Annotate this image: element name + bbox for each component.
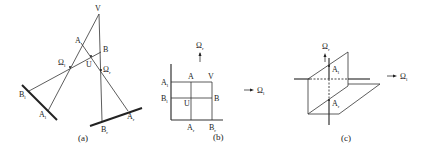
label-Omega-l: Ωl bbox=[58, 58, 66, 68]
label-B-r: Br bbox=[101, 125, 108, 135]
caption-a: (a) bbox=[78, 133, 88, 143]
label-B: B bbox=[103, 45, 108, 54]
panel-c-3d-planes: Ωr Ωl Al Ar (c) bbox=[294, 42, 408, 143]
label-B-l-b: Bl bbox=[161, 94, 168, 104]
label-A-r-b: Ar bbox=[187, 123, 195, 133]
label-U-b: U bbox=[184, 99, 190, 108]
caption-b: (b) bbox=[213, 132, 224, 142]
label-A-r-c: Ar bbox=[332, 99, 340, 109]
label-B-l: Bl bbox=[19, 90, 26, 100]
label-V-b: V bbox=[208, 72, 214, 81]
arrow-right-icon-c bbox=[393, 75, 397, 78]
panel-a-perspective-projection: V A B U Ωl Ωr Bl Al Ar Br (a) bbox=[19, 4, 142, 143]
arrow-right-icon bbox=[250, 89, 254, 92]
label-V: V bbox=[95, 4, 101, 13]
label-A-l-b: Al bbox=[161, 78, 169, 88]
vertical-plane bbox=[308, 52, 348, 114]
label-A-l-c: Al bbox=[332, 65, 340, 75]
label-A-b: A bbox=[188, 72, 194, 81]
line-B-Bl bbox=[29, 52, 101, 91]
panel-b-disparity-space: Ωr Ωl Al Bl A V U B Ar Br (b) bbox=[161, 41, 265, 142]
line-V-Br bbox=[99, 14, 102, 121]
arrow-up-icon bbox=[199, 52, 202, 56]
point-Omega-l bbox=[69, 66, 71, 68]
label-A-l: Al bbox=[39, 110, 47, 120]
label-Omega-l-b: Ωl bbox=[257, 86, 265, 96]
label-Omega-r-c: Ωr bbox=[322, 42, 330, 52]
arrow-up-icon-c bbox=[324, 53, 327, 57]
point-A-l-c bbox=[328, 65, 330, 67]
label-A: A bbox=[75, 36, 81, 45]
point-U bbox=[90, 55, 92, 57]
point-Omega-r bbox=[100, 69, 102, 71]
label-A-r: Ar bbox=[127, 112, 135, 122]
label-U: U bbox=[86, 60, 92, 69]
point-A-r-c bbox=[328, 99, 330, 101]
label-Omega-r: Ωr bbox=[103, 65, 111, 75]
caption-c: (c) bbox=[341, 133, 351, 143]
label-B-b: B bbox=[214, 94, 219, 103]
label-Omega-l-c: Ωl bbox=[400, 72, 408, 82]
label-Omega-r-b: Ωr bbox=[196, 41, 204, 51]
stereo-geometry-figure: V A B U Ωl Ωr Bl Al Ar Br (a) Ωr Ωl Al B… bbox=[0, 0, 428, 150]
